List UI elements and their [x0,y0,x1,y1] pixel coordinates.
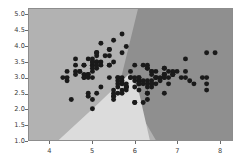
data-point [107,75,112,80]
data-point [145,97,150,102]
data-point [90,66,95,71]
y-tick-label: 3.5 [14,59,25,66]
data-point [94,91,99,96]
y-tick-label: 2.5 [14,90,25,97]
data-point [124,44,129,49]
x-tick-label: 8 [218,148,222,155]
y-tick-mark [25,78,28,79]
data-point [183,56,188,61]
x-axis: 45678 [0,141,245,163]
data-point [73,56,78,61]
data-point [111,38,116,43]
data-point [98,85,103,90]
data-point [132,75,137,80]
data-point [115,75,120,80]
data-point [128,69,133,74]
y-tick-mark [25,62,28,63]
data-point [86,56,91,61]
y-tick-mark [25,46,28,47]
data-point [60,75,65,80]
y-tick-mark [25,94,28,95]
data-point [153,69,158,74]
y-tick-label: 2.0 [14,106,25,113]
y-tick-mark [25,125,28,126]
y-tick-mark [25,14,28,15]
data-point [132,100,137,105]
data-point [136,75,141,80]
data-point [153,75,158,80]
y-tick-label: 4.0 [14,43,25,50]
data-point [120,31,125,36]
data-point [132,85,137,90]
data-point [73,69,78,74]
y-tick-label: 4.5 [14,27,25,34]
data-point [187,78,192,83]
data-point [166,69,171,74]
data-point [115,81,120,86]
data-point [111,60,116,65]
data-point [136,81,141,86]
data-point [162,91,167,96]
data-point [107,53,112,58]
data-point [213,50,218,55]
data-point [141,100,146,105]
y-tick-mark [25,109,28,110]
data-point [204,81,209,86]
data-point [166,81,171,86]
x-tick-label: 7 [175,148,179,155]
y-tick-label: 1.5 [14,122,25,129]
y-tick-mark [25,30,28,31]
data-point [65,75,70,80]
x-tick-label: 4 [47,148,51,155]
data-point [183,69,188,74]
data-point [204,75,209,80]
data-point [141,63,146,68]
data-point [94,63,99,68]
data-point [115,91,120,96]
y-tick-mark [25,141,28,142]
y-tick-label: 5.0 [14,11,25,18]
data-point [107,63,112,68]
data-point [158,75,163,80]
data-point [141,81,146,86]
data-point [98,41,103,46]
y-tick-label: 3.0 [14,74,25,81]
data-points-layer [29,9,232,140]
data-point [86,91,91,96]
data-point [170,72,175,77]
data-point [179,75,184,80]
x-tick-label: 5 [90,148,94,155]
data-point [132,63,137,68]
data-point [175,69,180,74]
data-point [90,106,95,111]
data-point [120,91,125,96]
x-tick-mark [49,141,50,144]
data-point [107,47,112,52]
data-point [145,63,150,68]
data-point [90,60,95,65]
data-point [200,75,205,80]
x-tick-mark [135,141,136,144]
data-point [69,97,74,102]
data-point [124,85,129,90]
data-point [90,75,95,80]
plot-area [28,8,233,141]
data-point [136,88,141,93]
data-point [82,75,87,80]
data-point [111,88,116,93]
data-point [98,63,103,68]
data-point [145,81,150,86]
data-point [183,75,188,80]
data-point [128,75,133,80]
data-point [120,81,125,86]
data-point [162,66,167,71]
data-point [103,53,108,58]
data-point [149,72,154,77]
data-point [77,69,82,74]
data-point [65,69,70,74]
data-point [145,91,150,96]
scatter-plot-figure: 1.01.52.02.53.03.54.04.55.0 45678 [0,0,245,163]
data-point [82,63,87,68]
data-point [166,75,171,80]
data-point [204,50,209,55]
